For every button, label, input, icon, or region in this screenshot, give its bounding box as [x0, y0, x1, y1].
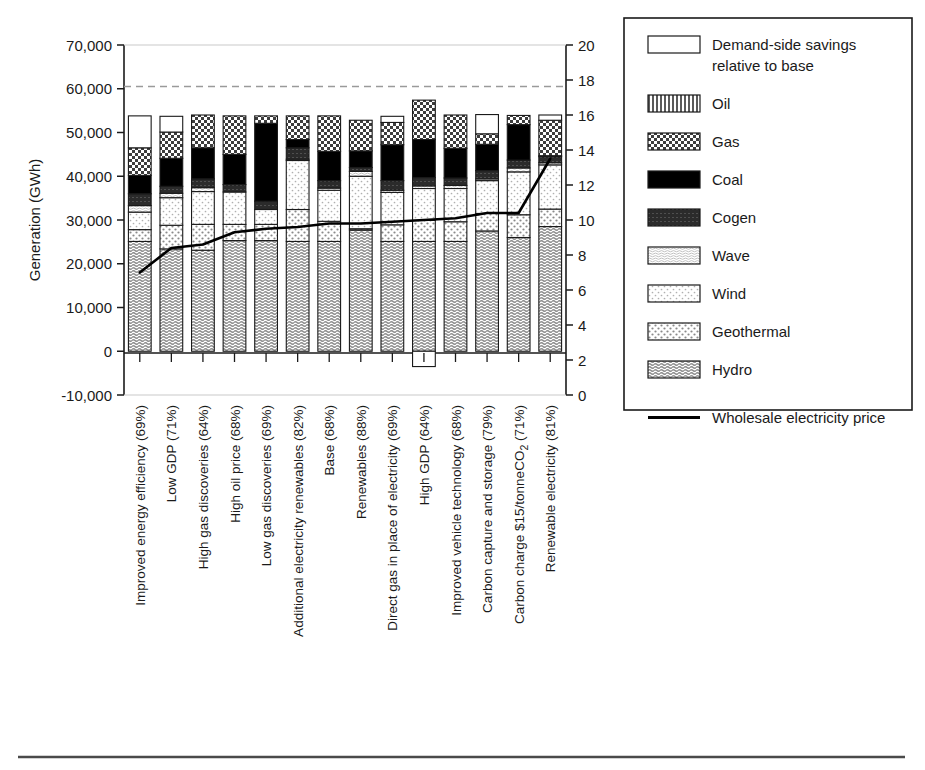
legend-label: Cogen	[712, 209, 756, 226]
category-label: Carbon charge $15/tonneCO2 (71%)	[512, 405, 530, 624]
bar-segment	[128, 241, 151, 351]
y2-tick-label: 8	[578, 247, 586, 264]
bar-segment	[223, 154, 246, 184]
bar-group	[349, 120, 372, 351]
bar-group	[507, 115, 530, 351]
category-label: Renewable electricity (81%)	[543, 405, 558, 572]
bar-group	[286, 116, 309, 351]
bar-segment	[349, 176, 372, 229]
legend-swatch-wave	[648, 247, 700, 264]
bar-segment	[255, 201, 278, 209]
svg-text:Low GDP (71%): Low GDP (71%)	[164, 405, 179, 502]
bar-segment	[223, 116, 246, 155]
bar-segment	[192, 115, 215, 148]
legend-swatch-white	[648, 36, 700, 53]
bar-segment	[160, 116, 183, 132]
svg-text:Base (68%): Base (68%)	[322, 405, 337, 476]
bar-group	[255, 116, 278, 351]
y-axis-title: Generation (GWh)	[26, 159, 43, 282]
bars-layer	[128, 100, 561, 366]
bar-segment	[349, 151, 372, 168]
y2-tick-label: 14	[578, 142, 595, 159]
bar-segment	[476, 181, 499, 214]
bar-segment	[192, 192, 215, 225]
y-tick-label: 0	[104, 343, 112, 360]
bar-segment	[255, 123, 278, 201]
category-label: Direct gas in place of electricity (69%)	[385, 405, 400, 631]
legend-label: Wave	[712, 247, 750, 264]
category-label: Base (68%)	[322, 405, 337, 476]
legend-label: Oil	[712, 95, 730, 112]
bar-segment	[507, 215, 530, 238]
bar-segment	[444, 115, 467, 148]
y2-tick-label: 20	[578, 37, 595, 54]
legend-swatch-hydro	[648, 361, 700, 378]
bar-segment	[223, 192, 246, 224]
legend-swatch-geothermal	[648, 323, 700, 340]
svg-text:Carbon capture and storage (79: Carbon capture and storage (79%)	[480, 405, 495, 613]
bar-segment	[286, 148, 309, 159]
svg-text:Improved energy efficiency (69: Improved energy efficiency (69%)	[133, 405, 148, 606]
category-label: Low GDP (71%)	[164, 405, 179, 502]
bar-segment	[318, 116, 341, 151]
bar-group	[318, 116, 341, 351]
category-label: Improved energy efficiency (69%)	[133, 405, 148, 606]
bar-segment	[476, 213, 499, 231]
bar-segment	[255, 241, 278, 352]
category-label: Improved vehicle technology (68%)	[449, 405, 464, 616]
y-tick-label: 40,000	[66, 168, 112, 185]
category-label: Low gas discoveries (69%)	[259, 405, 274, 566]
bar-segment	[160, 193, 183, 197]
right-axis: 02468101214161820	[566, 37, 595, 404]
svg-text:High GDP (64%): High GDP (64%)	[417, 405, 432, 505]
bar-segment	[507, 125, 530, 160]
legend-label: Wind	[712, 285, 746, 302]
bar-segment	[444, 241, 467, 351]
bar-segment	[286, 140, 309, 148]
bar-segment	[192, 250, 215, 351]
bar-segment	[128, 230, 151, 242]
bar-segment	[318, 190, 341, 221]
category-label: High GDP (64%)	[417, 405, 432, 505]
bar-segment	[318, 181, 341, 188]
bar-segment	[128, 116, 151, 148]
bar-segment	[160, 249, 183, 351]
bar-segment	[381, 241, 404, 351]
y2-tick-label: 6	[578, 282, 586, 299]
bar-segment	[476, 144, 499, 170]
y-tick-label: 60,000	[66, 80, 112, 97]
bar-segment	[381, 192, 404, 224]
bar-segment	[413, 241, 436, 351]
bar-segment	[381, 225, 404, 242]
bar-group	[413, 100, 436, 366]
legend: Demand-side savingsrelative to baseOilGa…	[624, 18, 912, 426]
bar-segment	[381, 122, 404, 144]
bar-segment	[507, 168, 530, 172]
category-label: High oil price (68%)	[228, 405, 243, 523]
bar-group	[192, 115, 215, 351]
bar-segment	[160, 225, 183, 249]
bar-group	[539, 115, 562, 351]
bar-segment	[223, 185, 246, 192]
bar-segment	[128, 212, 151, 230]
bar-segment	[286, 116, 309, 140]
y2-tick-label: 12	[578, 177, 595, 194]
category-label: Renewables (88%)	[354, 405, 369, 519]
bar-segment	[381, 145, 404, 181]
y2-tick-label: 2	[578, 352, 586, 369]
legend-swatch-oil	[648, 95, 700, 112]
y2-tick-label: 4	[578, 317, 586, 334]
bar-segment	[128, 206, 151, 213]
svg-text:Direct gas in place of electri: Direct gas in place of electricity (69%)	[385, 405, 400, 631]
legend-swatch-wind	[648, 285, 700, 302]
bar-segment	[349, 120, 372, 151]
bar-segment	[160, 158, 183, 186]
y2-tick-label: 10	[578, 212, 595, 229]
bar-segment	[507, 172, 530, 215]
bar-segment	[476, 171, 499, 179]
svg-text:Carbon charge $15/tonneCO2 (71: Carbon charge $15/tonneCO2 (71%)	[512, 405, 530, 624]
bar-segment	[349, 171, 372, 176]
y2-tick-label: 0	[578, 387, 586, 404]
bar-segment	[413, 140, 436, 178]
bar-segment	[192, 148, 215, 179]
